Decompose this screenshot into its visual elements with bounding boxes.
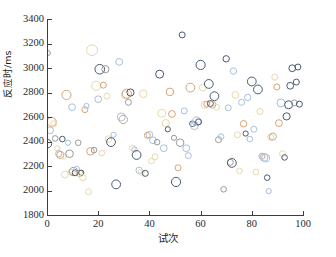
- y-tick-label: 2200: [23, 161, 44, 172]
- scatter-point: [117, 113, 125, 121]
- scatter-point: [60, 136, 66, 142]
- x-tick-mark: [149, 211, 150, 215]
- scatter-point: [277, 99, 285, 107]
- scatter-point: [283, 113, 290, 120]
- y-tick-mark: [48, 215, 52, 216]
- scatter-point: [116, 58, 123, 65]
- scatter-point: [87, 148, 95, 156]
- scatter-point: [171, 135, 176, 140]
- scatter-point: [293, 79, 299, 85]
- x-tick-mark: [303, 211, 304, 215]
- scatter-point: [225, 105, 231, 111]
- scatter-point: [221, 186, 227, 192]
- scatter-point: [62, 171, 69, 178]
- x-tick-label: 100: [295, 218, 311, 229]
- scatter-point: [287, 82, 294, 89]
- y-tick-mark: [48, 166, 52, 167]
- scatter-point: [196, 60, 205, 69]
- scatter-point: [254, 85, 263, 94]
- scatter-point: [92, 81, 101, 90]
- y-tick-label: 2400: [23, 136, 44, 147]
- scatter-point: [237, 168, 243, 174]
- scatter-point: [69, 104, 76, 111]
- scatter-point: [152, 154, 158, 160]
- x-tick-label: 0: [44, 218, 49, 229]
- scatter-point: [253, 169, 259, 175]
- scatter-point: [232, 92, 239, 99]
- scatter-point: [243, 131, 248, 136]
- y-tick-mark: [48, 19, 52, 20]
- scatter-point: [210, 92, 219, 101]
- scatter-point: [75, 140, 81, 146]
- scatter-point: [240, 121, 246, 127]
- plot-area: [47, 19, 303, 215]
- y-tick-label: 2800: [23, 87, 44, 98]
- scatter-point: [165, 127, 170, 132]
- scatter-point: [171, 177, 180, 186]
- scatter-point: [179, 32, 185, 38]
- scatter-point: [156, 70, 164, 78]
- scatter-point: [175, 165, 181, 171]
- scatter-point: [104, 93, 110, 99]
- x-tick-label: 60: [195, 218, 206, 229]
- scatter-bubble-layer: [47, 19, 303, 215]
- y-tick-mark: [48, 117, 52, 118]
- scatter-point: [247, 77, 256, 86]
- y-tick-label: 1800: [23, 210, 44, 221]
- scatter-point: [272, 74, 278, 80]
- y-tick-label: 2600: [23, 112, 44, 123]
- scatter-point: [166, 88, 174, 96]
- scatter-point: [186, 83, 195, 92]
- chart-figure: 180020002200240026002800300032003400 020…: [0, 0, 336, 257]
- scatter-point: [84, 103, 89, 108]
- scatter-point: [251, 126, 257, 132]
- scatter-point: [99, 150, 105, 156]
- scatter-point: [181, 108, 187, 114]
- scatter-point: [142, 170, 148, 176]
- scatter-point: [85, 189, 91, 195]
- scatter-point: [95, 96, 102, 103]
- x-tick-mark: [98, 211, 99, 215]
- scatter-point: [264, 175, 270, 181]
- y-tick-label: 3000: [23, 63, 44, 74]
- scatter-point: [132, 151, 141, 160]
- scatter-point: [119, 115, 127, 123]
- y-tick-label: 3400: [23, 14, 44, 25]
- scatter-point: [158, 109, 166, 117]
- scatter-point: [102, 66, 109, 73]
- scatter-point: [257, 108, 263, 114]
- scatter-point: [100, 82, 106, 88]
- scatter-point: [223, 56, 229, 62]
- scatter-point: [274, 84, 280, 90]
- scatter-point: [55, 146, 60, 151]
- x-tick-mark: [201, 211, 202, 215]
- scatter-point: [204, 80, 213, 89]
- scatter-point: [162, 120, 169, 127]
- scatter-point: [245, 94, 251, 100]
- scatter-point: [234, 132, 240, 138]
- y-tick-mark: [48, 93, 52, 94]
- scatter-point: [169, 111, 176, 118]
- scatter-point: [176, 139, 184, 147]
- scatter-point: [139, 90, 147, 98]
- y-tick-mark: [48, 44, 52, 45]
- scatter-point: [160, 145, 167, 152]
- x-tick-mark: [47, 211, 48, 215]
- scatter-point: [65, 140, 70, 145]
- y-axis-title: 反应时/ms: [2, 70, 13, 84]
- x-axis-title: 试次: [0, 232, 336, 244]
- scatter-point: [230, 68, 236, 74]
- scatter-point: [111, 132, 116, 137]
- x-tick-label: 80: [247, 218, 258, 229]
- y-tick-mark: [48, 68, 52, 69]
- scatter-point: [276, 120, 283, 127]
- scatter-point: [112, 180, 121, 189]
- scatter-point: [239, 99, 245, 105]
- y-tick-mark: [48, 142, 52, 143]
- scatter-point: [183, 145, 190, 152]
- scatter-point: [185, 153, 191, 159]
- y-tick-mark: [48, 191, 52, 192]
- scatter-point: [125, 99, 131, 105]
- y-axis-title-text: 反应时/ms: [2, 84, 13, 98]
- x-tick-label: 20: [93, 218, 104, 229]
